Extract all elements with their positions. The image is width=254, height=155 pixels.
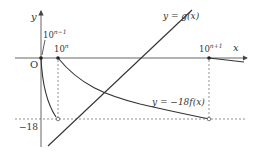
line-g (48, 10, 192, 146)
function-graph-figure: y x O 10n−1 10n 10n+1 −18 y = g(x) y = −… (0, 0, 254, 155)
y-tick-label-minus-18: −18 (19, 122, 38, 132)
y-axis-label: y (30, 11, 37, 22)
f-curve-label: y = −18f(x) (151, 97, 205, 107)
curve-left-branch (41, 58, 56, 117)
x-axis-label: x (233, 42, 239, 53)
point-origin (39, 56, 43, 60)
open-point-10n-bottom (56, 117, 60, 121)
origin-label: O (30, 59, 38, 70)
point-10n (56, 56, 60, 60)
leader-line-10n-1 (42, 40, 45, 55)
tick-label-10n: 10n (54, 42, 69, 54)
g-curve-label: y = g(x) (162, 11, 200, 21)
tick-label-10n1: 10n+1 (199, 42, 223, 54)
open-point-10n1-bottom (207, 117, 211, 121)
curve-minus-18f (58, 58, 209, 119)
curve-right-branch (209, 58, 244, 62)
point-10n1 (207, 56, 211, 60)
tick-label-10n-1: 10n−1 (43, 28, 67, 40)
